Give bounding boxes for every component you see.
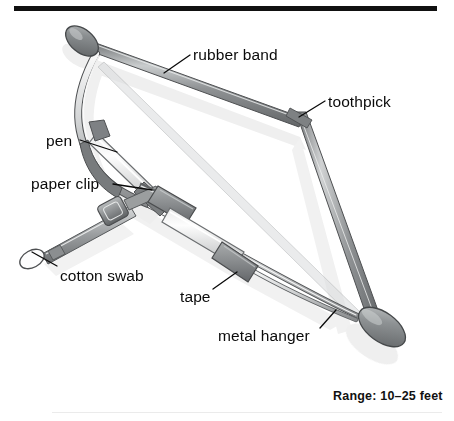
drop-shadow-group <box>44 38 405 372</box>
callout-label-rubber-band: rubber band <box>193 47 278 63</box>
callout-label-paper-clip: paper clip <box>31 176 99 192</box>
figure-canvas: rubber band toothpick pen paper clip cot… <box>0 0 454 421</box>
leader-toothpick <box>299 101 325 117</box>
leader-rubber-band <box>164 55 190 73</box>
callout-label-pen: pen <box>46 133 72 149</box>
range-caption: Range: 10–25 feet <box>333 390 443 403</box>
callout-label-tape: tape <box>180 289 211 305</box>
callout-label-metal-hanger: metal hanger <box>218 328 310 344</box>
callout-label-toothpick: toothpick <box>328 94 391 110</box>
leader-tape <box>213 272 237 289</box>
bottom-divider-rule <box>52 412 442 413</box>
callout-label-cotton-swab: cotton swab <box>60 268 144 284</box>
crossbow-illustration <box>0 0 454 421</box>
